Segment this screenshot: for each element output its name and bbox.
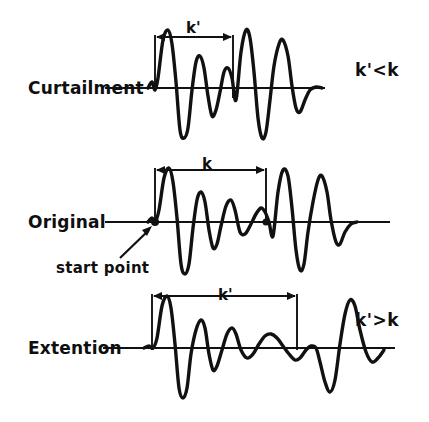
row-original: [105, 166, 390, 274]
figure-canvas: Curtailment k'<k k' Original k start poi…: [0, 0, 429, 422]
bracket-arrow-right-original: [256, 166, 265, 174]
bracket-arrow-right-curtailment: [223, 33, 232, 41]
waveform-curtailment: [148, 29, 322, 139]
start-point-arrow-shaft: [120, 230, 149, 258]
waveform-plot-svg: [0, 0, 429, 422]
bracket-arrow-right-extention: [287, 292, 296, 300]
bracket-arrow-left-original: [156, 166, 165, 174]
row-curtailment: [105, 29, 325, 139]
bracket-arrow-left-extention: [153, 292, 162, 300]
row-extention: [103, 292, 395, 398]
